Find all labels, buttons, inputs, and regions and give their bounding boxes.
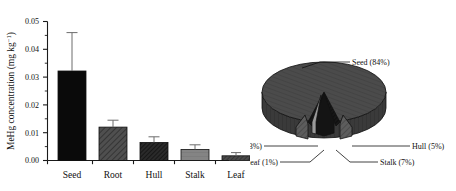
bar-chart-svg: 0.00 0.01 0.02 0.03 0.04 0.05 MeHg conce… bbox=[0, 0, 250, 191]
bar-root bbox=[99, 127, 127, 160]
pie-label-stalk: Stalk (7%) bbox=[380, 158, 415, 167]
y-tick-label-0: 0.00 bbox=[25, 156, 39, 165]
x-tick-label-hull: Hull bbox=[146, 170, 163, 180]
figure-panel: 0.00 0.01 0.02 0.03 0.04 0.05 MeHg conce… bbox=[0, 0, 456, 191]
y-axis-title: MeHg concentration (mg kg−1) bbox=[5, 32, 17, 150]
bar-group-leaf bbox=[222, 153, 250, 161]
x-tick-label-root: Root bbox=[104, 170, 123, 180]
y-tick-label-1: 0.01 bbox=[25, 129, 39, 138]
pie-chart-svg: Seed (84%) Root (3%) Hull (5%) Leaf (1%)… bbox=[250, 0, 456, 191]
pie-chart-panel: Seed (84%) Root (3%) Hull (5%) Leaf (1%)… bbox=[250, 0, 456, 191]
bar-group-hull bbox=[140, 137, 168, 161]
x-tick-label-seed: Seed bbox=[63, 170, 82, 180]
y-axis-title-superscript: −1 bbox=[5, 35, 12, 42]
svg-text:MeHg concentration (mg kg−1): MeHg concentration (mg kg−1) bbox=[5, 32, 17, 150]
bar-stalk bbox=[181, 149, 209, 160]
bar-group-seed bbox=[58, 33, 86, 161]
y-tick-label-3: 0.03 bbox=[25, 73, 39, 82]
x-axis-ticks bbox=[48, 161, 216, 165]
y-tick-label-2: 0.02 bbox=[25, 101, 39, 110]
bar-group-root bbox=[99, 120, 127, 160]
y-axis-title-main: MeHg concentration (mg kg bbox=[6, 42, 17, 150]
y-tick-label-5: 0.05 bbox=[25, 17, 39, 26]
pie-label-root: Root (3%) bbox=[250, 142, 262, 151]
pie-label-seed: Seed (84%) bbox=[352, 58, 390, 67]
pie-label-leaf: Leaf (1%) bbox=[250, 158, 278, 167]
bar-chart-panel: 0.00 0.01 0.02 0.03 0.04 0.05 MeHg conce… bbox=[0, 0, 250, 191]
leader-line-stalk bbox=[336, 150, 350, 162]
bar-leaf bbox=[222, 156, 250, 161]
bar-seed bbox=[58, 71, 86, 161]
x-tick-label-stalk: Stalk bbox=[185, 170, 205, 180]
bar-hull bbox=[140, 142, 168, 160]
bar-group-stalk bbox=[181, 145, 209, 161]
pie-label-hull: Hull (5%) bbox=[412, 142, 445, 151]
y-tick-label-4: 0.04 bbox=[25, 45, 39, 54]
y-axis-title-tail: ) bbox=[6, 32, 17, 35]
x-tick-label-leaf: Leaf bbox=[227, 170, 245, 180]
leader-line-leaf bbox=[310, 150, 324, 162]
